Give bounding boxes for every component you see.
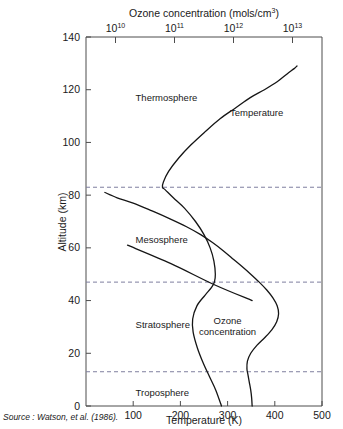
curve-mesosphere-boundary-segment (128, 245, 253, 300)
chart-svg: 020406080100120140 100200300400500 10101… (0, 0, 343, 429)
plot-axes (86, 37, 322, 406)
top-tick-label: 1012 (224, 22, 244, 34)
y-tick-label: 120 (62, 83, 80, 95)
y-tick-label: 80 (68, 189, 80, 201)
curve-ozone-concentration (105, 193, 279, 406)
x-tick-label: 100 (124, 409, 142, 421)
atmosphere-profile-chart: 020406080100120140 100200300400500 10101… (0, 0, 343, 429)
layer-label-stratosphere: Stratosphere (136, 319, 190, 330)
x-tick-label: 500 (313, 409, 331, 421)
layer-label-troposphere: Troposphere (136, 387, 190, 398)
top-tick-label: 1010 (106, 22, 126, 34)
x-tick-label: 400 (266, 409, 284, 421)
top-tick-label: 1011 (165, 22, 184, 34)
y-tick-label: 20 (68, 347, 80, 359)
ozone-curve-label-line1: Ozone (214, 315, 242, 326)
temperature-curve-label: Temperature (230, 107, 283, 118)
top-tick-label: 1013 (283, 22, 303, 34)
y-tick-label: 100 (62, 136, 80, 148)
y-tick-label: 60 (68, 241, 80, 253)
layer-label-thermosphere: Thermosphere (136, 92, 198, 103)
x-axis-title: Temperature (K) (166, 414, 242, 426)
y-tick-label: 0 (74, 400, 80, 412)
y-axis-title: Altitude (km) (56, 193, 68, 252)
layer-label-mesosphere: Mesosphere (136, 234, 188, 245)
layer-name-labels: ThermosphereMesosphereStratosphereTropos… (136, 92, 198, 398)
source-note: Source : Watson, et al. (1986). (3, 412, 118, 422)
top-axis-title: Ozone concentration (mols/cm3) (129, 7, 279, 19)
y-tick-label: 140 (62, 31, 80, 43)
top-axis-ticks: 1010101110121013 (106, 22, 303, 43)
ozone-curve-label-line2: concentration (199, 326, 256, 337)
y-tick-label: 40 (68, 294, 80, 306)
